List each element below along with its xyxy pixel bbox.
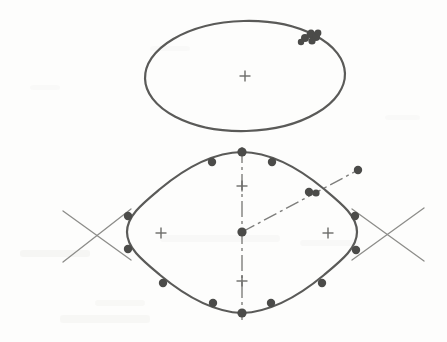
scan-smudge-3 [300, 240, 360, 246]
drawing-canvas [0, 0, 447, 342]
construction-cross-left-stroke-1 [63, 209, 131, 262]
center-mark-ellipse [240, 71, 251, 82]
node-ellipse-cluster-3[interactable] [308, 37, 315, 44]
construction-cross-right-stroke-0 [352, 208, 424, 260]
scan-smudge-4 [150, 46, 190, 51]
node-upper-right[interactable] [268, 158, 276, 166]
node-ellipse-cluster-5[interactable] [298, 39, 304, 45]
node-top-vertex[interactable] [237, 147, 246, 156]
node-lower-right-2[interactable] [267, 299, 275, 307]
drawing-svg [0, 0, 447, 342]
center-mark-diamond-right [323, 228, 334, 239]
scan-artifact-layer [20, 46, 420, 323]
scan-smudge-6 [385, 115, 420, 120]
scan-smudge-1 [60, 315, 150, 323]
node-lower-right[interactable] [318, 279, 326, 287]
node-right-upper[interactable] [351, 212, 359, 220]
center-mark-diamond-lower [237, 276, 248, 287]
construction-cross-left [63, 209, 131, 262]
construction-cross-right [352, 208, 424, 261]
construction-cross-right-stroke-1 [352, 209, 424, 261]
node-left-lower[interactable] [124, 245, 132, 253]
scan-smudge-2 [160, 235, 280, 242]
node-lower-left[interactable] [159, 279, 167, 287]
node-right-lower[interactable] [352, 246, 360, 254]
node-free-endpoint[interactable] [354, 166, 362, 174]
scan-smudge-7 [95, 300, 145, 306]
node-center[interactable] [237, 227, 246, 236]
center-mark-diamond-upper [237, 181, 248, 192]
node-upper-left[interactable] [208, 158, 216, 166]
scan-smudge-5 [30, 85, 60, 90]
node-upper-right-3[interactable] [312, 189, 319, 196]
node-lower-left-2[interactable] [209, 299, 217, 307]
node-ellipse-cluster-4[interactable] [315, 30, 322, 37]
centerline-layer [242, 147, 358, 320]
center-mark-layer [156, 71, 334, 287]
node-bottom-vertex[interactable] [237, 308, 246, 317]
diagonal-centerline [242, 170, 358, 232]
scan-smudge-0 [20, 250, 90, 257]
node-left-upper[interactable] [124, 212, 132, 220]
node-upper-right-2[interactable] [305, 188, 313, 196]
